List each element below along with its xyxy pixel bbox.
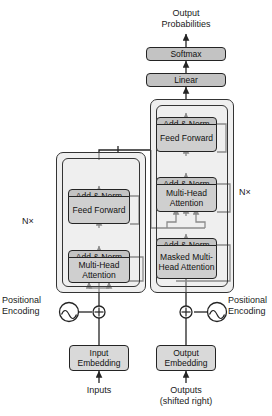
linear-box: Linear [146,73,226,87]
transformer-architecture-diagram: Output Probabilities Softmax Linear N× A… [0,0,272,416]
encoder-feed-forward: Feed Forward [68,196,130,224]
encoder-repeat-label: N× [22,216,34,226]
add-operator-right [180,306,192,318]
input-embedding-box: Input Embedding [69,345,129,371]
output-embedding-box: Output Embedding [156,345,216,371]
positional-encoding-label-right: Positional Encoding [228,295,272,317]
sine-wave-icon-left [60,303,79,322]
sine-wave-icon-right [208,303,227,322]
outputs-label: Outputs (shifted right) [146,385,226,407]
decoder-feed-forward: Feed Forward [156,124,217,152]
positional-encoding-label-left: Positional Encoding [2,295,58,317]
decoder-repeat-label: N× [239,187,251,197]
decoder-multi-head-attention: Multi-Head Attention [156,184,217,212]
inputs-label: Inputs [59,385,139,396]
output-probabilities-label: Output Probabilities [126,8,246,30]
encoder-multi-head-attention: Multi-Head Attention [68,257,130,283]
add-operator-left [93,306,105,318]
decoder-masked-multi-head-attention: Masked Multi-Head Attention [156,245,217,279]
softmax-box: Softmax [146,47,226,61]
